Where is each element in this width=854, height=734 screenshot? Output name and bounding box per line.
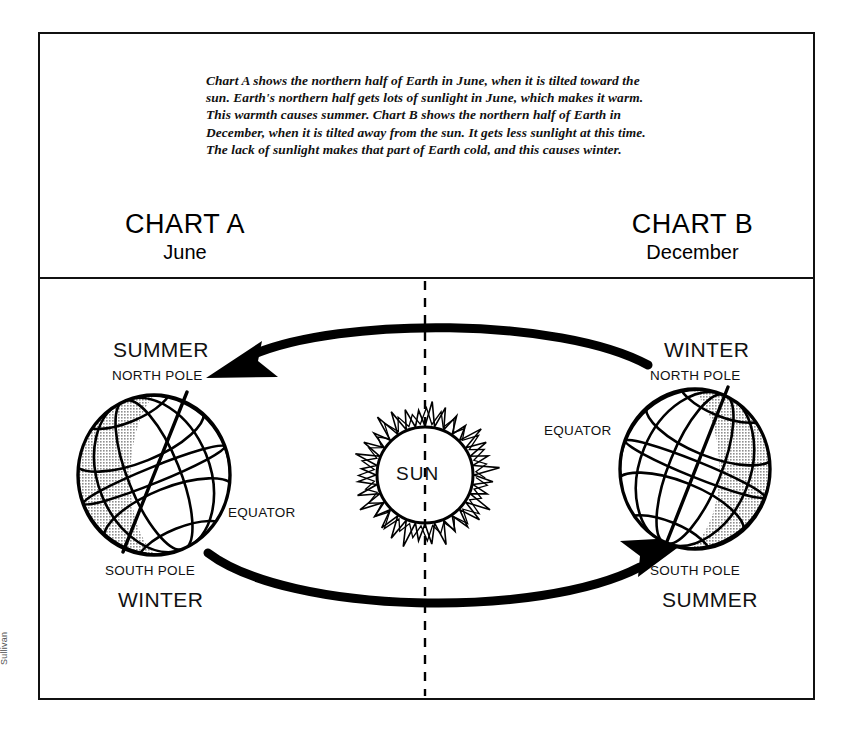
orbit-arrow-top [206, 328, 648, 378]
orbit-arrow-bottom [208, 537, 692, 603]
globe-b-equator-label: EQUATOR [544, 423, 612, 438]
chart-b-heading: CHART B December [600, 209, 785, 264]
globe-a-season-bottom: WINTER [118, 588, 203, 612]
sun-label: SUN [396, 463, 439, 485]
page-canvas: Chart A shows the northern half of Earth… [0, 0, 854, 734]
globe-a-season-top: SUMMER [113, 338, 209, 362]
globe-b-south-pole-label: SOUTH POLE [650, 563, 740, 578]
globe-a-north-pole-label: NORTH POLE [112, 368, 203, 383]
chart-a-title: CHART A [100, 209, 270, 240]
globe-a [54, 372, 255, 577]
intro-paragraph: Chart A shows the northern half of Earth… [206, 72, 666, 158]
credit-text: Sullivan [0, 632, 9, 665]
globe-a-south-pole-label: SOUTH POLE [105, 563, 195, 578]
chart-b-subtitle: December [600, 240, 785, 264]
chart-a-subtitle: June [100, 240, 270, 264]
chart-b-title: CHART B [600, 209, 785, 240]
chart-a-heading: CHART A June [100, 209, 270, 264]
globe-a-equator-label: EQUATOR [228, 505, 296, 520]
globe-b-north-pole-label: NORTH POLE [650, 368, 741, 383]
globe-b-season-top: WINTER [664, 338, 749, 362]
globe-b-season-bottom: SUMMER [662, 588, 758, 612]
globe-b [595, 367, 794, 572]
